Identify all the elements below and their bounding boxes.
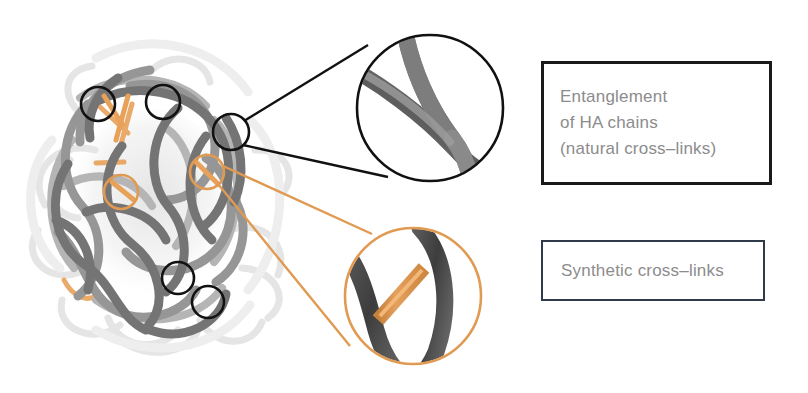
legend-synthetic-label: Synthetic cross–links: [561, 261, 724, 281]
figure-root: Entanglement of HA chains (natural cross…: [0, 0, 808, 393]
polymer-network-diagram: [0, 0, 808, 393]
legend-synthetic-box: Synthetic cross–links: [541, 240, 765, 301]
legend-entanglement-box: Entanglement of HA chains (natural cross…: [541, 61, 772, 185]
magnifier-entanglement: [340, 28, 503, 206]
magnifier-crosslink: [344, 228, 481, 380]
legend-entanglement-label: Entanglement of HA chains (natural cross…: [560, 84, 716, 162]
